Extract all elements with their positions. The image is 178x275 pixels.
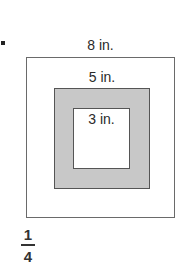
fraction-numerator: 1 [20, 226, 36, 243]
period-dot [1, 41, 5, 45]
fraction-denominator: 4 [20, 248, 36, 265]
answer-fraction: 1 4 [20, 226, 36, 265]
problem-number-marker [0, 40, 6, 46]
inner-square-label: 3 in. [73, 111, 130, 127]
fraction-bar [21, 244, 35, 246]
outer-square-label: 8 in. [26, 37, 175, 53]
middle-square-label: 5 in. [54, 69, 150, 85]
